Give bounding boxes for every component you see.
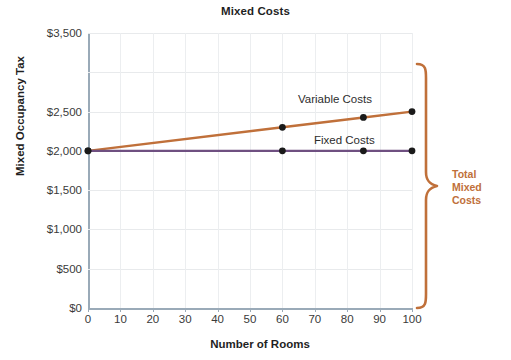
total-mixed-costs-annotation-line: Costs bbox=[452, 194, 508, 207]
data-point-marker bbox=[279, 124, 286, 131]
data-point-marker bbox=[85, 147, 92, 154]
x-axis-tick-mark bbox=[88, 308, 89, 312]
x-axis-tick-mark bbox=[153, 308, 154, 312]
x-axis-tick-mark bbox=[185, 308, 186, 312]
y-axis-tick-label: $2,000 bbox=[10, 145, 82, 157]
data-point-marker bbox=[360, 114, 367, 121]
x-axis-tick-mark bbox=[218, 308, 219, 312]
x-axis-tick-label: 100 bbox=[392, 313, 432, 325]
mixed-costs-chart: Mixed Costs Mixed Occupancy Tax Number o… bbox=[0, 0, 511, 360]
x-axis-tick-mark bbox=[412, 308, 413, 312]
y-axis-tick-label: $3,500 bbox=[10, 27, 82, 39]
series-plot bbox=[88, 33, 412, 308]
x-axis-tick-mark bbox=[250, 308, 251, 312]
total-mixed-costs-annotation-line: Total bbox=[452, 168, 508, 181]
y-axis-tick-label: $1,500 bbox=[10, 184, 82, 196]
data-point-marker bbox=[360, 147, 367, 154]
gridline-vertical bbox=[412, 33, 413, 308]
series-label-variable-costs: Variable Costs bbox=[298, 93, 372, 105]
x-axis-tick-mark bbox=[380, 308, 381, 312]
x-axis-tick-mark bbox=[120, 308, 121, 312]
x-axis-tick-mark bbox=[315, 308, 316, 312]
y-axis-tick-label: $500 bbox=[10, 263, 82, 275]
total-mixed-costs-brace-icon bbox=[415, 60, 441, 312]
x-axis-tick-mark bbox=[347, 308, 348, 312]
total-mixed-costs-annotation-line: Mixed bbox=[452, 181, 508, 194]
data-point-marker bbox=[279, 147, 286, 154]
y-axis-tick-labels: $0$500$1,000$1,500$2,000$2,500$3,500 bbox=[6, 0, 82, 360]
plot-area bbox=[88, 33, 412, 308]
y-axis-tick-label: $1,000 bbox=[10, 223, 82, 235]
y-axis-tick-label: $2,500 bbox=[10, 106, 82, 118]
x-axis-title: Number of Rooms bbox=[80, 338, 440, 350]
x-axis-tick-mark bbox=[282, 308, 283, 312]
total-mixed-costs-annotation: TotalMixedCosts bbox=[452, 168, 508, 207]
series-label-fixed-costs: Fixed Costs bbox=[314, 134, 375, 146]
